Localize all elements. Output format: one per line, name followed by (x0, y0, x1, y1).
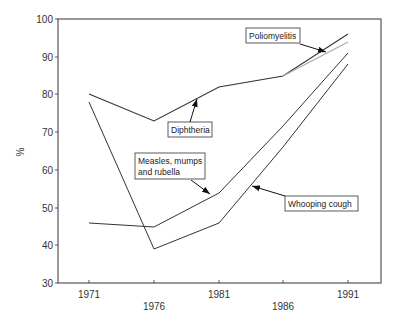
callout-diphtheria: Diphtheria (168, 99, 212, 137)
y-axis: 100 90 80 70 60 50 40 30 % (15, 14, 58, 289)
y-tick-60: 60 (42, 165, 54, 176)
svg-text:Diphtheria: Diphtheria (171, 125, 210, 135)
callout-measles: Measles, mumps and rubella (135, 153, 210, 194)
y-tick-40: 40 (42, 240, 54, 251)
y-tick-70: 70 (42, 127, 54, 138)
y-tick-90: 90 (42, 52, 54, 63)
y-tick-30: 30 (42, 278, 54, 289)
x-tick-1976: 1976 (143, 301, 166, 312)
svg-text:and rubella: and rubella (138, 167, 180, 177)
x-tick-1971: 1971 (78, 289, 101, 300)
y-axis-label: % (15, 147, 26, 156)
y-tick-80: 80 (42, 89, 54, 100)
svg-text:Measles, mumps: Measles, mumps (138, 156, 202, 166)
callout-whooping-cough: Whooping cough (252, 186, 358, 211)
svg-text:Poliomyelitis: Poliomyelitis (249, 31, 296, 41)
y-tick-100: 100 (36, 14, 53, 25)
series-whooping-cough (89, 64, 348, 249)
callout-poliomyelitis: Poliomyelitis (246, 28, 326, 52)
plot-frame (58, 19, 381, 283)
y-tick-50: 50 (42, 203, 54, 214)
x-tick-1981: 1981 (208, 289, 231, 300)
x-tick-1986: 1986 (272, 301, 295, 312)
svg-text:Whooping cough: Whooping cough (288, 199, 352, 209)
x-axis: 1971 1976 1981 1986 1991 (78, 280, 360, 312)
x-tick-1991: 1991 (337, 289, 360, 300)
chart: 100 90 80 70 60 50 40 30 % 1971 1976 198… (0, 0, 401, 324)
series-poliomyelitis (283, 42, 348, 76)
